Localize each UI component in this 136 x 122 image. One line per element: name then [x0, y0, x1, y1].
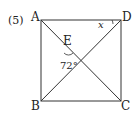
- point-a-label: A: [30, 10, 40, 24]
- square-figure: (5) A D B C E 72° x: [0, 0, 136, 122]
- point-e-label: E: [63, 34, 72, 48]
- angle-arc-72: [64, 53, 73, 55]
- point-d-label: D: [122, 10, 132, 24]
- point-c-label: C: [121, 99, 130, 113]
- angle-72-label: 72°: [60, 60, 78, 71]
- geometry-diagram: (5) A D B C E 72° x: [0, 0, 136, 122]
- angle-x-label: x: [98, 19, 104, 30]
- angle-arc-x: [112, 20, 113, 24]
- problem-number: (5): [8, 14, 24, 27]
- point-b-label: B: [31, 99, 40, 113]
